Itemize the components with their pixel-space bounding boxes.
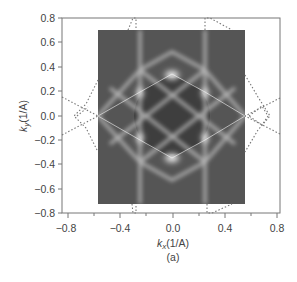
x-axis-label: kx(1/A)	[157, 237, 189, 251]
x-axis: −0.8 −0.4 0.0 0.4 0.8 kx(1/A)	[56, 213, 285, 251]
y-tick-label: −0.8	[34, 207, 55, 219]
x-tick-label: −0.4	[110, 222, 131, 234]
y-tick-label: 0.8	[40, 12, 55, 24]
y-tick-label: 0.2	[40, 85, 55, 97]
y-axis-label: ky(1/A)	[17, 100, 31, 132]
fermi-surface-figure: 0.8 0.6 0.4 0.2 0.0 −0.2 −0.4 −0.6 −0.8 …	[0, 0, 297, 282]
intensity-map	[98, 30, 245, 204]
y-tick-label: −0.4	[34, 158, 55, 170]
x-tick-label: 0.0	[166, 222, 181, 234]
figure-caption: (a)	[167, 251, 180, 263]
y-tick-label: 0.4	[40, 61, 55, 73]
y-tick-label: 0.0	[40, 110, 55, 122]
x-tick-label: 0.4	[218, 222, 233, 234]
x-tick-label: 0.8	[270, 222, 285, 234]
y-tick-label: 0.6	[40, 36, 55, 48]
x-tick-label: −0.8	[56, 222, 77, 234]
y-tick-label: −0.2	[34, 134, 55, 146]
y-axis: 0.8 0.6 0.4 0.2 0.0 −0.2 −0.4 −0.6 −0.8 …	[17, 12, 62, 219]
y-tick-label: −0.6	[34, 183, 55, 195]
